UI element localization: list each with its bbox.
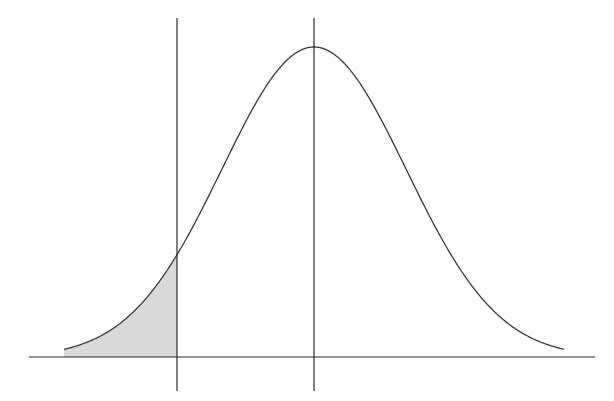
shaded-left-tail [64, 255, 177, 357]
normal-distribution-chart [0, 0, 614, 401]
